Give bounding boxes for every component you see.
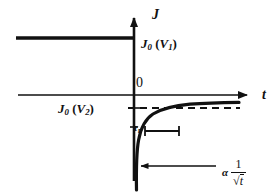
label-decay-law-denominator: √t: [231, 174, 246, 189]
label-j0-v1: J0 (V1): [141, 37, 177, 52]
label-j0-v2-close: ): [90, 101, 94, 116]
label-j0-v2: J0 (V2): [58, 102, 94, 117]
origin-label: 0: [136, 76, 143, 90]
label-decay-law-numerator: 1: [231, 158, 246, 171]
label-j0-v2-arg: V: [77, 101, 86, 116]
label-j0-v1-close: ): [173, 36, 177, 51]
label-decay-law-alpha: α: [222, 166, 228, 178]
label-tau-r: τr: [133, 122, 141, 135]
x-axis-label: t: [262, 88, 266, 102]
figure-root: J t 0 J0 (V1) J0 (V2) τr α 1 √t: [0, 0, 280, 196]
fraction-bar: [231, 172, 246, 173]
label-tau-r-subscript: r: [138, 126, 141, 135]
radical-icon: √: [233, 174, 240, 188]
label-decay-law-fraction: 1 √t: [231, 158, 246, 188]
label-j0-v1-open: (: [152, 36, 160, 51]
label-decay-law-radicand: t: [240, 174, 244, 189]
label-j0-v1-arg: V: [160, 36, 169, 51]
y-axis-label: J: [152, 8, 159, 22]
label-decay-law: α 1 √t: [222, 158, 246, 188]
label-j0-v2-open: (: [69, 101, 77, 116]
